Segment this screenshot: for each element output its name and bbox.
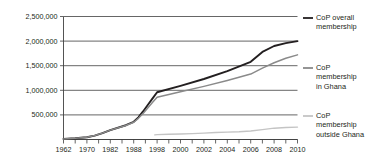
y-tick-label: 2,000,000	[26, 37, 58, 46]
x-tick-label: 1982	[102, 145, 118, 154]
legend-label: membership	[316, 22, 357, 31]
legend-label: CoP	[316, 63, 330, 72]
y-tick-label: 1,000,000	[26, 86, 58, 95]
x-tick-label: 2000	[173, 145, 189, 154]
legend-label: in Ghana	[316, 82, 347, 91]
x-tick-label: 2006	[243, 145, 259, 154]
x-tick-label: 2008	[266, 145, 282, 154]
x-axis-tick-labels: 1962197019821988199820002002200420062008…	[56, 145, 306, 154]
x-tick-label: 1998	[149, 145, 165, 154]
x-tick-label: 1970	[79, 145, 95, 154]
chart-canvas: 500,0001,000,0001,500,0002,000,0002,500,…	[0, 0, 387, 166]
x-axis	[64, 140, 298, 144]
gridlines	[64, 17, 298, 140]
y-tick-label: 2,500,000	[26, 12, 58, 21]
legend-label: outside Ghana	[316, 130, 365, 139]
x-tick-label: 1962	[56, 145, 72, 154]
chart-legend: CoP overallmembershipCoPmembershipin Gha…	[303, 13, 365, 139]
legend-label: CoP	[316, 111, 330, 120]
y-axis	[60, 17, 64, 140]
y-tick-label: 500,000	[32, 110, 58, 119]
x-tick-label: 2004	[219, 145, 235, 154]
x-tick-label: 2010	[290, 145, 306, 154]
y-tick-label: 1,500,000	[26, 61, 58, 70]
y-axis-tick-labels: 500,0001,000,0001,500,0002,000,0002,500,…	[26, 12, 58, 119]
series-line	[155, 127, 298, 135]
membership-line-chart: 500,0001,000,0001,500,0002,000,0002,500,…	[0, 0, 387, 166]
x-tick-label: 2002	[196, 145, 212, 154]
legend-label: CoP overall	[316, 13, 354, 22]
series-line	[64, 55, 298, 139]
legend-label: membership	[316, 72, 357, 81]
legend-label: membership	[316, 120, 357, 129]
x-tick-label: 1988	[126, 145, 142, 154]
